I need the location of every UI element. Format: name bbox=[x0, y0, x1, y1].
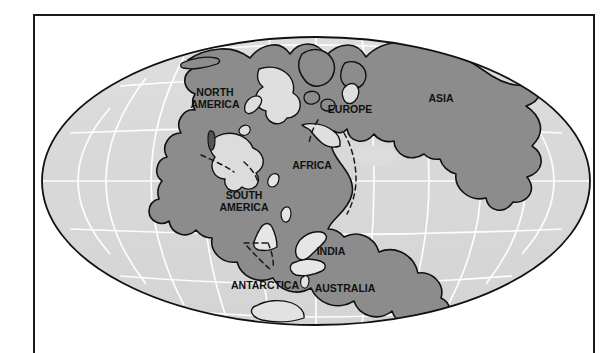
label-australia: AUSTRALIA bbox=[315, 282, 376, 294]
islet-mid-atlantic-b bbox=[281, 207, 291, 222]
label-north-america-line2: AMERICA bbox=[191, 98, 240, 110]
label-south-america-line2: AMERICA bbox=[220, 201, 269, 213]
islet-na-south-small bbox=[239, 125, 250, 135]
islet-antarctic-small bbox=[301, 276, 309, 289]
islet-north-small-a bbox=[304, 91, 320, 104]
label-north-america-line1: NORTH bbox=[196, 86, 233, 98]
label-antarctica: ANTARCTICA bbox=[231, 279, 299, 291]
label-asia: ASIA bbox=[428, 92, 454, 104]
label-africa: AFRICA bbox=[292, 159, 332, 171]
label-europe: EUROPE bbox=[328, 103, 372, 115]
figure-root: NORTH AMERICA SOUTH AMERICA AFRICA EUROP… bbox=[0, 0, 615, 353]
label-india: INDIA bbox=[317, 245, 346, 257]
islet-west-coast-strip bbox=[208, 131, 215, 150]
pangaea-map: NORTH AMERICA SOUTH AMERICA AFRICA EUROP… bbox=[0, 0, 615, 353]
label-south-america-line1: SOUTH bbox=[226, 189, 263, 201]
